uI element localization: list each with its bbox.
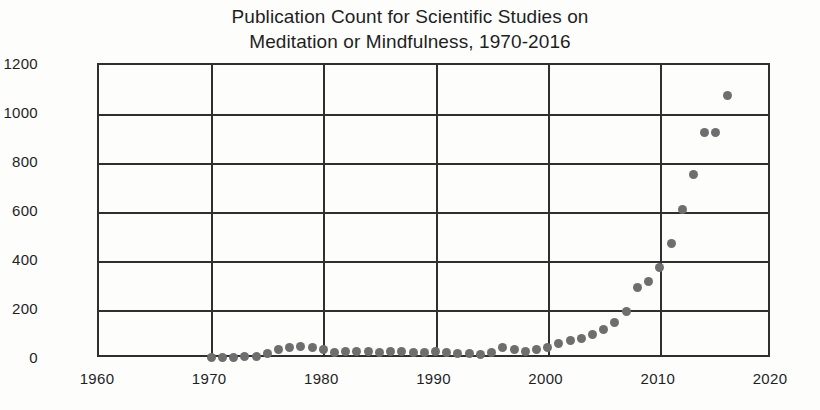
gridline-vertical-1980 — [323, 65, 325, 355]
data-point — [252, 352, 261, 361]
data-point — [644, 277, 653, 286]
gridline-horizontal-400 — [99, 261, 768, 263]
data-point — [442, 348, 451, 357]
data-point — [667, 239, 676, 248]
x-tick-label-1990: 1990 — [416, 370, 451, 387]
data-point — [465, 349, 474, 358]
y-tick-label-1200: 1200 — [3, 55, 38, 72]
data-point — [588, 330, 597, 339]
x-tick-label-2020: 2020 — [753, 370, 788, 387]
data-point — [409, 348, 418, 357]
data-point — [308, 343, 317, 352]
data-point — [240, 352, 249, 361]
data-point — [610, 318, 619, 327]
data-point — [521, 347, 530, 356]
y-tick-label-800: 800 — [12, 153, 38, 170]
data-point — [285, 343, 294, 352]
data-point — [599, 325, 608, 334]
data-point — [554, 339, 563, 348]
data-point — [420, 348, 429, 357]
chart-title: Publication Count for Scientific Studies… — [0, 4, 820, 54]
chart-container: Publication Count for Scientific Studies… — [0, 0, 820, 410]
data-point — [386, 347, 395, 356]
y-tick-label-0: 0 — [29, 349, 38, 366]
y-tick-label-200: 200 — [12, 300, 38, 317]
data-point — [330, 348, 339, 357]
chart-title-line-1: Publication Count for Scientific Studies… — [0, 4, 820, 29]
gridline-horizontal-200 — [99, 310, 768, 312]
data-point — [296, 342, 305, 351]
gridline-horizontal-1000 — [99, 114, 768, 116]
data-point — [723, 91, 732, 100]
data-point — [577, 334, 586, 343]
data-point — [566, 336, 575, 345]
y-tick-label-600: 600 — [12, 202, 38, 219]
data-point — [274, 345, 283, 354]
data-point — [689, 170, 698, 179]
x-tick-label-1960: 1960 — [80, 370, 115, 387]
data-point — [498, 343, 507, 352]
y-tick-label-400: 400 — [12, 251, 38, 268]
gridline-vertical-1990 — [436, 65, 438, 355]
data-point — [476, 350, 485, 359]
gridline-horizontal-600 — [99, 212, 768, 214]
data-point — [711, 128, 720, 137]
data-point — [341, 347, 350, 356]
gridline-vertical-2010 — [660, 65, 662, 355]
data-point — [229, 353, 238, 362]
x-tick-label-1970: 1970 — [192, 370, 227, 387]
data-point — [352, 347, 361, 356]
data-point — [532, 345, 541, 354]
x-tick-label-1980: 1980 — [304, 370, 339, 387]
plot-area — [97, 63, 770, 357]
data-point — [364, 347, 373, 356]
data-point — [453, 349, 462, 358]
data-point — [700, 128, 709, 137]
chart-title-line-2: Meditation or Mindfulness, 1970-2016 — [0, 29, 820, 54]
data-point — [397, 347, 406, 356]
gridline-vertical-2000 — [548, 65, 550, 355]
data-point — [263, 349, 272, 358]
y-tick-label-1000: 1000 — [3, 104, 38, 121]
gridline-horizontal-800 — [99, 163, 768, 165]
data-point — [487, 348, 496, 357]
gridline-vertical-1970 — [211, 65, 213, 355]
x-tick-label-2000: 2000 — [528, 370, 563, 387]
data-point — [218, 353, 227, 362]
data-point — [633, 283, 642, 292]
x-tick-label-2010: 2010 — [641, 370, 676, 387]
data-point — [510, 345, 519, 354]
data-point — [375, 348, 384, 357]
